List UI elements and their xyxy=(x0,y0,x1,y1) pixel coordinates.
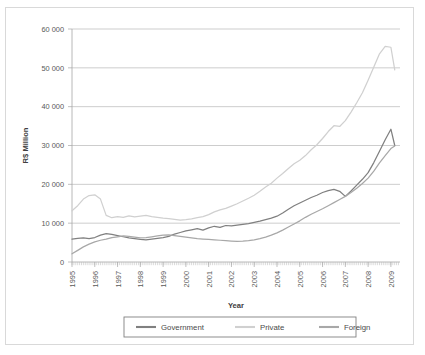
line-chart: 010 00020 00030 00040 00050 00060 000199… xyxy=(6,8,413,344)
x-tick-label: 2003 xyxy=(250,271,259,287)
y-tick-label: 10 000 xyxy=(41,219,64,228)
legend-label-private: Private xyxy=(260,323,284,332)
x-tick-label: 1995 xyxy=(68,271,77,287)
x-tick-label: 2000 xyxy=(182,271,191,287)
y-tick-label: 0 xyxy=(60,258,64,267)
y-tick-label: 60 000 xyxy=(41,25,64,34)
series-line-foreign xyxy=(72,146,395,254)
x-tick-label: 2004 xyxy=(273,271,282,287)
chart-plot-host: 010 00020 00030 00040 00050 00060 000199… xyxy=(6,8,413,344)
x-tick-label: 2008 xyxy=(364,271,373,287)
x-tick-label: 1999 xyxy=(159,271,168,287)
x-tick-label: 1996 xyxy=(91,271,100,287)
x-tick-label: 2002 xyxy=(227,271,236,287)
legend-label-foreign: Foreign xyxy=(344,323,370,332)
y-tick-label: 40 000 xyxy=(41,102,64,111)
x-tick-label: 2007 xyxy=(341,271,350,287)
x-tick-label: 1997 xyxy=(114,271,123,287)
y-axis-title: R$ Million xyxy=(21,127,30,163)
x-tick-label: 2001 xyxy=(205,271,214,287)
x-axis-title: Year xyxy=(228,301,244,310)
x-tick-label: 2009 xyxy=(387,271,396,287)
y-tick-label: 20 000 xyxy=(41,180,64,189)
x-tick-label: 1998 xyxy=(136,271,145,287)
legend-label-government: Government xyxy=(161,323,205,332)
x-tick-label: 2005 xyxy=(296,271,305,287)
y-tick-label: 30 000 xyxy=(41,141,64,150)
chart-frame: 010 00020 00030 00040 00050 00060 000199… xyxy=(5,7,414,345)
x-tick-label: 2006 xyxy=(319,271,328,287)
y-tick-label: 50 000 xyxy=(41,64,64,73)
series-line-private xyxy=(72,46,395,220)
